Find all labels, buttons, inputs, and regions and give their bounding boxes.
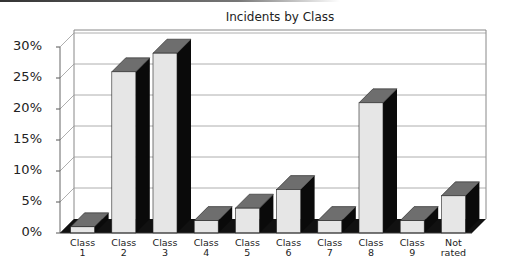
y-tick-label: 0% — [2, 224, 42, 239]
bar-front — [359, 103, 383, 233]
bar-chart-plot — [0, 0, 512, 270]
grid-depth-line — [60, 33, 74, 47]
x-category-label: Class 1 — [63, 238, 103, 258]
bar-front — [441, 196, 465, 233]
bar-front — [71, 227, 95, 233]
bar-side — [383, 89, 397, 233]
y-tick-label: 25% — [2, 69, 42, 84]
grid-depth-line — [60, 188, 74, 202]
x-category-label: Class 6 — [269, 238, 309, 258]
bar-front — [194, 221, 218, 233]
x-category-label: Class 5 — [227, 238, 267, 258]
x-category-label: Class 9 — [392, 238, 432, 258]
x-category-label: Class 7 — [310, 238, 350, 258]
y-tick-label: 30% — [2, 38, 42, 53]
grid-depth-line — [60, 95, 74, 109]
x-category-label: Class 2 — [104, 238, 144, 258]
bar-front — [318, 221, 342, 233]
bar-front — [112, 72, 136, 233]
bar-front — [153, 53, 177, 233]
y-tick-label: 10% — [2, 162, 42, 177]
grid-depth-line — [60, 157, 74, 171]
x-category-label: Class 4 — [186, 238, 226, 258]
y-tick-label: 15% — [2, 131, 42, 146]
x-category-label: Class 3 — [145, 238, 185, 258]
bar-front — [400, 221, 424, 233]
x-category-label: Class 8 — [351, 238, 391, 258]
grid-depth-line — [60, 64, 74, 78]
grid-depth-line — [60, 126, 74, 140]
bar-side — [136, 58, 150, 233]
x-category-label: Not rated — [433, 238, 473, 258]
y-tick-label: 20% — [2, 100, 42, 115]
bar-front — [277, 190, 301, 233]
y-tick-label: 5% — [2, 193, 42, 208]
bar-front — [235, 208, 259, 233]
bar-side — [177, 39, 191, 233]
